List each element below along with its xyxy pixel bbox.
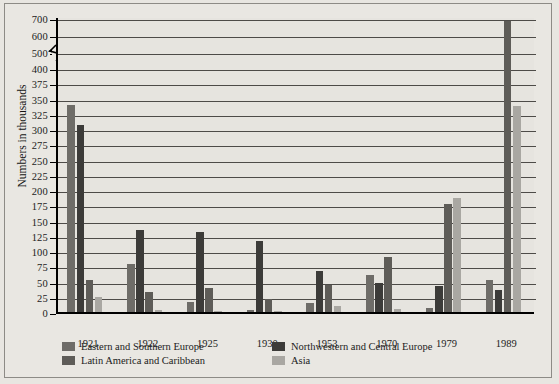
y-axis: 0255075100125150175200225250275300325350…: [0, 0, 56, 320]
bar-1979-series-3: [453, 198, 461, 312]
bar-1930-series-2: [265, 299, 273, 312]
bar-1930-series-1: [256, 241, 264, 312]
bar-1922-series-3: [155, 310, 163, 312]
bar-1921-series-1: [77, 125, 85, 312]
bar-1989-series-0: [486, 280, 494, 312]
y-axis-tick-label: 200: [32, 187, 48, 198]
bar-1970-series-3: [394, 309, 402, 312]
bar-1953-series-1: [316, 271, 324, 312]
y-axis-tick-label: 375: [32, 80, 48, 91]
gridline: [58, 223, 536, 224]
bar-1970-series-1: [375, 283, 383, 312]
bar-1930-series-0: [247, 310, 255, 312]
legend-item: Eastern and Southern Europe: [62, 341, 272, 352]
bar-1922-series-0: [127, 264, 135, 312]
y-axis-tick-label: 300: [32, 126, 48, 137]
bar-1989-series-1: [495, 290, 503, 312]
y-axis-tick-label: 400: [32, 65, 48, 76]
y-axis-tick-label: 0: [43, 309, 48, 320]
y-axis-tick-label: 250: [32, 157, 48, 168]
y-axis-tick-label: 50: [37, 279, 48, 290]
y-axis-tick-mark: [50, 314, 56, 315]
bar-1979-series-0: [426, 308, 434, 312]
gridline: [58, 20, 536, 21]
legend-item: Northwestern and Central Europe: [272, 341, 482, 352]
bar-1925-series-0: [187, 302, 195, 312]
legend-label: Asia: [291, 355, 310, 366]
y-axis-tick-label: 100: [32, 248, 48, 259]
legend-item: Asia: [272, 355, 482, 366]
bar-1989-series-3: [513, 106, 521, 312]
legend-label: Northwestern and Central Europe: [291, 341, 432, 352]
legend-swatch-icon: [62, 356, 75, 365]
legend-swatch-icon: [272, 356, 285, 365]
y-axis-tick-label: 600: [32, 32, 48, 43]
gridline: [58, 37, 536, 38]
plot-area: 19211922192519301953197019791989: [56, 18, 534, 314]
bar-1922-series-2: [145, 292, 153, 312]
bar-1921-series-0: [67, 105, 75, 312]
gridline: [58, 238, 536, 239]
bar-1979-series-1: [435, 286, 443, 312]
y-axis-tick-label: 275: [32, 141, 48, 152]
x-axis-tick-label: 1989: [476, 338, 536, 349]
legend-label: Latin America and Caribbean: [81, 355, 205, 366]
y-axis-tick-label: 25: [37, 294, 48, 305]
bar-1989-series-2: [504, 21, 512, 312]
chart-legend: Eastern and Southern EuropeNorthwestern …: [62, 339, 482, 367]
gridline: [58, 177, 536, 178]
legend-label: Eastern and Southern Europe: [81, 341, 204, 352]
bar-1953-series-2: [325, 285, 333, 312]
bar-1970-series-0: [366, 275, 374, 312]
bar-1922-series-1: [136, 230, 144, 312]
gridline: [58, 192, 536, 193]
y-axis-tick-label: 500: [32, 49, 48, 60]
bar-1930-series-3: [274, 311, 282, 313]
gridline: [58, 253, 536, 254]
bar-1979-series-2: [444, 204, 452, 312]
y-axis-tick-label: 700: [32, 15, 48, 26]
y-axis-tick-label: 75: [37, 263, 48, 274]
gridline: [58, 54, 536, 55]
bar-1953-series-0: [306, 303, 314, 312]
y-axis-tick-label: 325: [32, 111, 48, 122]
bar-1925-series-1: [196, 232, 204, 312]
gridline: [58, 162, 536, 163]
y-axis-tick-label: 125: [32, 233, 48, 244]
bar-1921-series-3: [95, 297, 103, 312]
bar-1921-series-2: [86, 280, 94, 312]
bar-1925-series-3: [214, 311, 222, 313]
bar-1953-series-3: [334, 306, 342, 312]
legend-item: Latin America and Caribbean: [62, 355, 272, 366]
legend-swatch-icon: [272, 342, 285, 351]
legend-swatch-icon: [62, 342, 75, 351]
y-axis-tick-label: 225: [32, 172, 48, 183]
y-axis-tick-label: 350: [32, 96, 48, 107]
bar-1970-series-2: [384, 257, 392, 312]
gridline: [58, 70, 536, 71]
gridline: [58, 207, 536, 208]
gridline: [58, 101, 536, 102]
gridline: [58, 85, 536, 86]
y-axis-tick-label: 150: [32, 218, 48, 229]
gridline: [58, 116, 536, 117]
y-axis-tick-label: 175: [32, 202, 48, 213]
gridline: [58, 131, 536, 132]
chart-figure: Numbers in thousands 0255075100125150175…: [0, 0, 559, 384]
gridline: [58, 146, 536, 147]
bar-1925-series-2: [205, 288, 213, 312]
